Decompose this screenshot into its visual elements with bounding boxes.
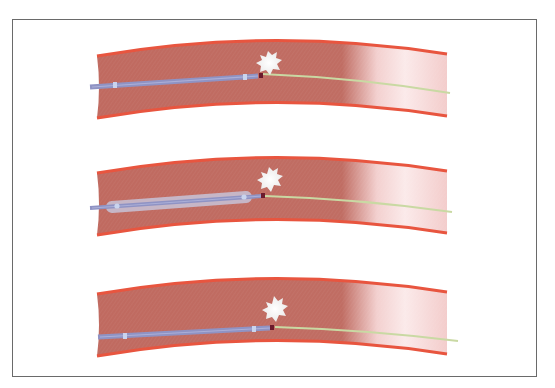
catheter-tip [270, 325, 274, 330]
marker-band [114, 203, 119, 208]
vessel-illustration [0, 0, 555, 388]
panel-2 [90, 157, 452, 235]
catheter-tip [261, 193, 265, 198]
marker-band [252, 326, 256, 332]
catheter-tip [259, 73, 263, 78]
marker-band [241, 194, 246, 199]
marker-band [113, 82, 117, 88]
panel-3 [97, 278, 458, 356]
marker-band [123, 333, 127, 339]
vessel [97, 278, 447, 356]
marker-band [243, 74, 247, 80]
vessel [97, 40, 447, 118]
panel-1 [90, 40, 450, 118]
